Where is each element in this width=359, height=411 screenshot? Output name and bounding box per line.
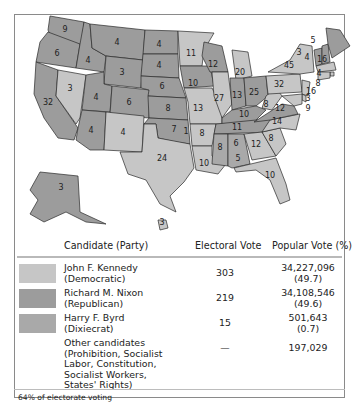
svg-text:8: 8: [165, 104, 170, 113]
svg-text:10: 10: [265, 171, 275, 180]
svg-text:3: 3: [67, 84, 72, 93]
popular-vote: 501,643 (0.7): [268, 313, 348, 334]
svg-text:7: 7: [171, 125, 176, 134]
svg-text:4: 4: [114, 38, 119, 47]
us-map-svg: 9 6 32 3 4 4 3 4 6 4 4 4 4 6 8 7 1 24 11…: [0, 0, 359, 250]
svg-text:32: 32: [274, 80, 284, 89]
state-me: [326, 28, 350, 58]
svg-text:8: 8: [268, 134, 273, 143]
svg-text:4: 4: [156, 61, 161, 70]
electoral-vote: 219: [194, 293, 256, 304]
popular-vote: 197,029: [268, 343, 348, 354]
svg-text:3: 3: [305, 94, 310, 103]
header-electoral-vote: Electoral Vote: [195, 241, 261, 252]
svg-text:6: 6: [159, 82, 164, 91]
svg-text:32: 32: [43, 98, 53, 107]
svg-text:10: 10: [199, 159, 209, 168]
svg-text:14: 14: [272, 117, 282, 126]
electoral-vote: 15: [194, 318, 256, 329]
svg-text:11: 11: [186, 49, 196, 58]
footnote-divider: [14, 389, 345, 390]
state-ri: [330, 72, 334, 76]
svg-text:27: 27: [214, 94, 224, 103]
svg-text:4: 4: [156, 40, 161, 49]
svg-text:4: 4: [120, 128, 125, 137]
state-ak: [30, 172, 106, 224]
svg-text:12: 12: [208, 60, 218, 69]
candidate-name: Richard M. Nixon (Republican): [64, 288, 143, 309]
svg-text:25: 25: [249, 88, 259, 97]
svg-text:6: 6: [54, 49, 59, 58]
candidate-name: Other candidates (Prohibition, Socialist…: [64, 338, 163, 391]
svg-text:4: 4: [88, 126, 93, 135]
svg-text:9: 9: [305, 104, 310, 113]
header-candidate: Candidate (Party): [64, 241, 148, 252]
svg-text:45: 45: [284, 61, 294, 70]
svg-text:3: 3: [58, 183, 63, 192]
electoral-vote: 303: [194, 268, 256, 279]
svg-text:4: 4: [85, 56, 90, 65]
swatch-democratic: [19, 264, 56, 283]
svg-text:12: 12: [275, 104, 285, 113]
footnote: 64% of electorate voting: [18, 393, 112, 402]
svg-text:10: 10: [239, 110, 249, 119]
popular-vote: 34,227,096 (49.7): [268, 263, 348, 284]
svg-text:5: 5: [310, 36, 315, 45]
svg-text:3: 3: [119, 68, 124, 77]
svg-text:10: 10: [188, 79, 198, 88]
svg-text:4: 4: [316, 69, 321, 78]
popular-vote: 34,108,546 (49.6): [268, 288, 348, 309]
swatch-republican: [19, 289, 56, 308]
svg-text:6: 6: [126, 98, 131, 107]
svg-text:24: 24: [157, 154, 167, 163]
svg-text:6: 6: [233, 139, 238, 148]
svg-text:8: 8: [199, 129, 204, 138]
svg-text:13: 13: [193, 104, 203, 113]
svg-text:1: 1: [183, 127, 188, 136]
svg-text:8: 8: [217, 143, 222, 152]
header-divider: [17, 256, 342, 258]
svg-text:8: 8: [315, 79, 320, 88]
svg-text:4: 4: [93, 93, 98, 102]
svg-text:8: 8: [263, 100, 268, 109]
electoral-map: 9 6 32 3 4 4 3 4 6 4 4 4 4 6 8 7 1 24 11…: [0, 0, 359, 250]
svg-text:3: 3: [296, 48, 301, 57]
swatch-dixiecrat: [19, 314, 56, 333]
candidate-name: John F. Kennedy (Democratic): [64, 263, 138, 284]
svg-text:16: 16: [317, 55, 327, 64]
svg-text:9: 9: [62, 25, 67, 34]
svg-text:3: 3: [159, 218, 164, 227]
svg-text:11: 11: [232, 123, 242, 132]
electoral-vote: —: [194, 343, 256, 354]
svg-text:5: 5: [235, 154, 240, 163]
svg-text:13: 13: [232, 91, 242, 100]
svg-text:12: 12: [251, 140, 261, 149]
svg-text:20: 20: [235, 68, 245, 77]
candidate-name: Harry F. Byrd (Dixiecrat): [64, 313, 124, 334]
header-popular-vote: Popular Vote (%): [272, 241, 352, 252]
svg-text:4: 4: [304, 53, 309, 62]
